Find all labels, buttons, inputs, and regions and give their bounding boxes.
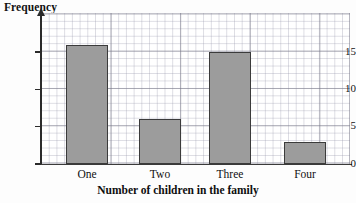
y-axis-arrow-icon <box>37 8 45 16</box>
x-axis-category-label: Three <box>190 168 270 180</box>
y-axis-tick-label: 10 <box>322 82 356 94</box>
y-axis-tick <box>35 163 41 164</box>
x-axis-category-label: Four <box>265 168 345 180</box>
y-axis-tick <box>35 89 41 90</box>
bar-four <box>284 142 326 164</box>
y-axis-tick <box>35 51 41 52</box>
bar-two <box>139 119 181 164</box>
y-axis-title: Frequency <box>4 1 57 13</box>
x-axis-title: Number of children in the family <box>0 184 356 196</box>
y-axis-tick-label: 5 <box>322 119 356 131</box>
x-axis-category-label: Two <box>120 168 200 180</box>
y-axis-tick <box>35 126 41 127</box>
x-axis-category-label: One <box>47 168 127 180</box>
bar-three <box>209 52 251 164</box>
y-axis-tick-label: 15 <box>322 45 356 57</box>
bar-one <box>66 45 108 164</box>
bar-chart-figure: Frequency 051015OneTwoThreeFour Number o… <box>0 0 356 203</box>
y-axis-tick-label: 0 <box>322 157 356 169</box>
